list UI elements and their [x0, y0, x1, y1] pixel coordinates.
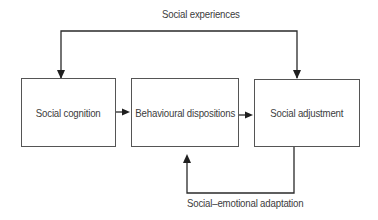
social-emotional-adaptation-label: Social–emotional adaptation [187, 197, 303, 209]
node-label: Social adjustment [270, 107, 343, 119]
social-emotional-adaptation-loop [183, 146, 294, 193]
dispositions-to-adjustment-arrow [239, 112, 253, 119]
arrow-up-icon [183, 154, 191, 163]
node-social-adjustment: Social adjustment [254, 79, 360, 147]
arrow-right-icon [245, 112, 253, 119]
diagram-canvas: Social experiences Social cognition Beha… [0, 0, 378, 220]
cognition-to-dispositions-arrow [116, 109, 130, 116]
node-label: Behavioural dispositions [135, 107, 235, 119]
social-experiences-label: Social experiences [162, 8, 240, 20]
arrow-down-icon [293, 70, 301, 79]
arrow-right-icon [122, 109, 130, 116]
node-behavioural-dispositions: Behavioural dispositions [131, 78, 239, 147]
social-experiences-loop [57, 31, 301, 79]
node-label: Social cognition [36, 107, 101, 119]
node-social-cognition: Social cognition [21, 78, 116, 147]
